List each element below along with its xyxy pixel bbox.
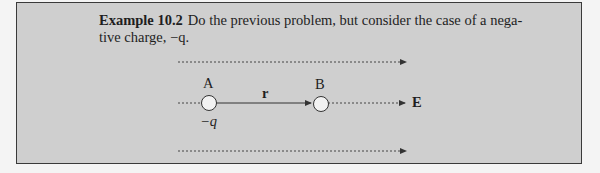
- field-diagram: [0, 0, 600, 173]
- charge-label: −q: [200, 113, 217, 130]
- point-a-label: A: [203, 75, 213, 92]
- point-a-circle: [202, 96, 217, 111]
- point-b-label: B: [315, 76, 325, 93]
- point-b-circle: [314, 97, 329, 112]
- field-e-label: E: [412, 94, 422, 111]
- vector-r-label: r: [262, 85, 268, 102]
